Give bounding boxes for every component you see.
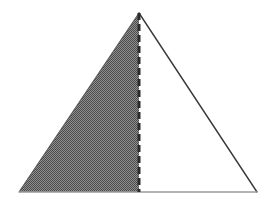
triangle-diagram <box>0 0 272 203</box>
figure-canvas <box>0 0 272 203</box>
